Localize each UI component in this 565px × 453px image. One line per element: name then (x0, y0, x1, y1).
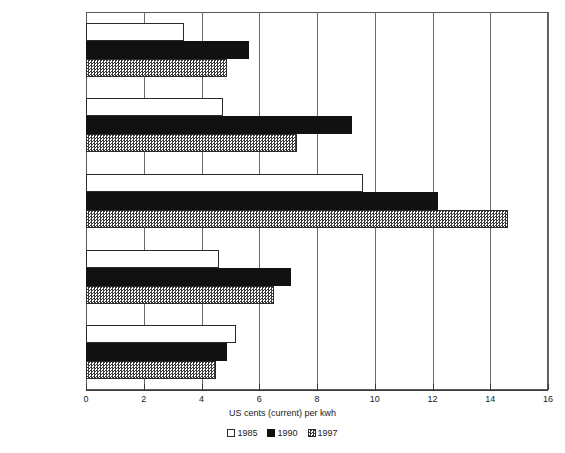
legend-swatch-icon (267, 429, 275, 437)
legend-item: 1997 (308, 428, 338, 438)
bar-chart: FranceGermanyJapanUnited KingdomUnited S… (0, 0, 565, 453)
bar (86, 41, 249, 59)
x-tick (375, 384, 376, 390)
x-tick-label: 14 (470, 394, 510, 404)
x-tick (317, 384, 318, 390)
x-tick (86, 384, 87, 390)
x-tick (144, 384, 145, 390)
bar (86, 98, 223, 116)
x-tick-label: 2 (124, 394, 164, 404)
bar (86, 210, 508, 228)
x-axis-line (86, 390, 548, 391)
bar (86, 268, 291, 286)
legend-label: 1997 (318, 428, 338, 438)
x-tick-label: 12 (413, 394, 453, 404)
gridline (548, 12, 549, 390)
gridline (490, 12, 491, 390)
legend-swatch-icon (308, 429, 316, 437)
x-tick-label: 0 (66, 394, 106, 404)
bar (86, 325, 236, 343)
bar (86, 286, 274, 304)
x-tick (202, 384, 203, 390)
x-tick-label: 6 (239, 394, 279, 404)
x-tick-label: 4 (182, 394, 222, 404)
legend-item: 1985 (227, 428, 257, 438)
legend-label: 1985 (237, 428, 257, 438)
legend-swatch-icon (227, 429, 235, 437)
bar (86, 343, 227, 361)
bar (86, 192, 438, 210)
bar (86, 134, 297, 152)
bar (86, 23, 184, 41)
x-tick (490, 384, 491, 390)
x-tick (548, 384, 549, 390)
x-axis-title: US cents (current) per kwh (0, 408, 565, 418)
bar (86, 250, 219, 268)
x-tick (433, 384, 434, 390)
bar (86, 361, 216, 379)
x-tick-label: 16 (528, 394, 565, 404)
bar (86, 59, 227, 77)
legend-item: 1990 (267, 428, 297, 438)
bar (86, 174, 363, 192)
x-tick (259, 384, 260, 390)
x-tick-label: 8 (297, 394, 337, 404)
chart-legend: 198519901997 (0, 428, 565, 438)
x-tick-label: 10 (355, 394, 395, 404)
legend-label: 1990 (277, 428, 297, 438)
bar (86, 116, 352, 134)
